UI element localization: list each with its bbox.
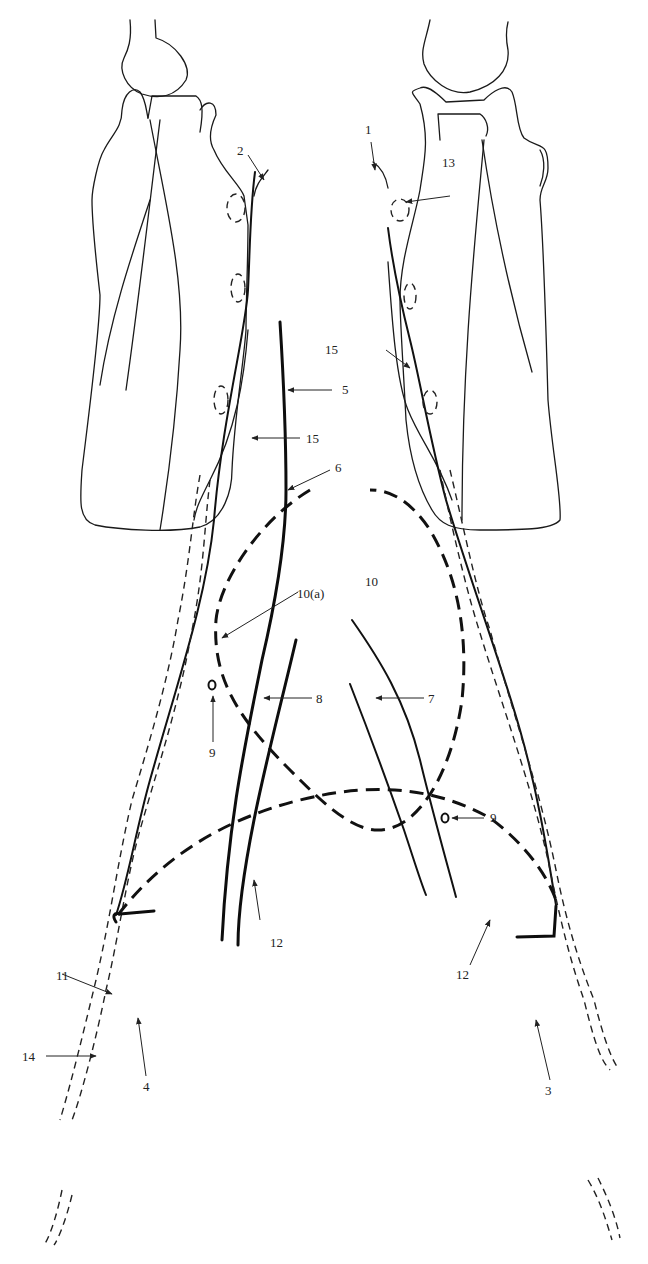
left-bone xyxy=(81,20,248,530)
label-1: 1 xyxy=(365,122,372,137)
line-5-6 xyxy=(222,322,286,940)
right-bone-outline xyxy=(400,87,560,530)
leaders xyxy=(46,142,550,1080)
left-dashed-outer-b xyxy=(72,480,210,1120)
label-8: 8 xyxy=(316,691,323,706)
region-10-outline xyxy=(216,490,464,830)
right-bone-inner xyxy=(438,114,488,140)
label-13: 13 xyxy=(442,155,455,170)
left-bone-line-c xyxy=(100,200,150,385)
label-12-left: 12 xyxy=(270,935,283,950)
dashed-loop xyxy=(227,194,245,222)
right-condyle xyxy=(423,20,508,93)
label-12-right: 12 xyxy=(456,967,469,982)
ligament-2 xyxy=(254,170,268,196)
left-bone-line-a xyxy=(126,120,160,390)
left-dashed-bottom-b xyxy=(54,1195,72,1245)
label-10a: 10(a) xyxy=(297,586,324,601)
label-10: 10 xyxy=(365,574,378,589)
label-11: 11 xyxy=(56,968,69,983)
arc-12 xyxy=(118,790,556,915)
left-dashed-bottom xyxy=(44,1190,62,1245)
label-5: 5 xyxy=(342,382,349,397)
label-9-right: 9 xyxy=(490,810,497,825)
dashed-loop xyxy=(231,274,245,302)
right-dashed-outer-b xyxy=(450,470,618,1068)
foramen-9-right xyxy=(442,814,449,823)
foramen-9-left xyxy=(209,681,216,690)
left-condyle xyxy=(122,20,187,97)
label-7: 7 xyxy=(428,691,435,706)
left-contour-15 xyxy=(194,330,248,520)
dashed-loop xyxy=(404,283,416,309)
left-bone-outline xyxy=(81,90,248,531)
right-bone-notch xyxy=(540,150,544,186)
right-bone xyxy=(400,20,560,530)
label-14: 14 xyxy=(22,1049,36,1064)
left-bone-line-b xyxy=(150,120,181,530)
label-4: 4 xyxy=(143,1079,150,1094)
corner-3 xyxy=(517,906,556,937)
right-dashed-bottom xyxy=(588,1180,612,1240)
ligament-1 xyxy=(373,162,388,188)
right-bone-line-a xyxy=(462,140,484,520)
label-3: 3 xyxy=(545,1083,552,1098)
label-15-left: 15 xyxy=(306,431,319,446)
left-dashed-outer-a xyxy=(60,475,200,1120)
label-15-right: 15 xyxy=(325,342,338,357)
label-9-left: 9 xyxy=(209,745,216,760)
left-bone-inner xyxy=(148,96,202,132)
label-6: 6 xyxy=(335,460,342,475)
anatomical-diagram: 1 2 13 15 5 15 6 10 10(a) 8 7 9 9 12 12 … xyxy=(0,0,648,1264)
dashed-loop xyxy=(214,386,228,414)
label-2: 2 xyxy=(237,143,244,158)
right-bone-line-b xyxy=(482,140,532,372)
line-7a xyxy=(352,620,456,897)
line-8 xyxy=(238,640,296,945)
